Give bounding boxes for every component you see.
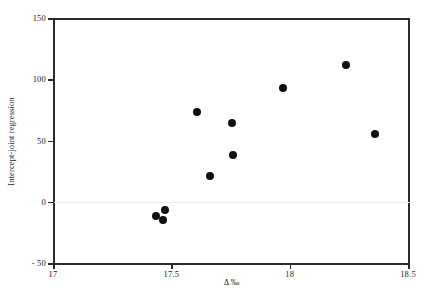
- data-point: [206, 172, 214, 180]
- data-point: [279, 84, 287, 92]
- y-axis-title: Intercept-joint regression: [4, 18, 18, 265]
- data-point: [371, 130, 379, 138]
- zero-reference-line: [53, 202, 410, 203]
- plot-area: - 50050100150 1717.51818.5: [53, 18, 410, 265]
- data-point: [159, 216, 167, 224]
- x-axis-line-top: [53, 18, 410, 20]
- y-tick: [48, 202, 54, 204]
- y-tick-label: 150: [33, 14, 46, 23]
- data-point: [161, 206, 169, 214]
- y-axis-line-right: [408, 18, 410, 265]
- y-tick-label: 50: [37, 136, 46, 145]
- y-tick-label: 100: [33, 75, 46, 84]
- data-point: [342, 61, 350, 69]
- scatter-plot-figure: - 50050100150 1717.51818.5 Intercept-joi…: [0, 0, 432, 301]
- data-point: [229, 151, 237, 159]
- data-point: [228, 119, 236, 127]
- y-tick-label: - 50: [32, 259, 46, 268]
- x-axis-title: Δ ‰: [53, 278, 410, 287]
- data-point: [193, 108, 201, 116]
- y-tick: [48, 141, 54, 143]
- y-tick-label: 0: [42, 198, 46, 207]
- y-tick: [48, 79, 54, 81]
- x-axis-line: [53, 263, 410, 265]
- y-tick: [48, 18, 54, 20]
